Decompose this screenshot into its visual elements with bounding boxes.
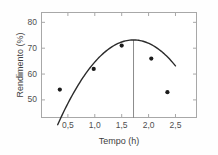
x-tick-label: 1,0 [82,121,108,130]
x-tick-label: 0,5 [55,121,81,130]
x-tick-label: 1,5 [109,121,135,130]
y-axis-tick-labels: 50607080 [0,0,218,155]
y-axis-title: Rendimento (%) [15,15,25,115]
x-axis-title: Tempo (h) [41,136,197,146]
chart-figure: 50607080 0,51,01,52,02,5 Tempo (h) Rendi… [0,0,218,155]
x-tick-label: 2,5 [162,121,188,130]
x-tick-label: 2,0 [136,121,162,130]
